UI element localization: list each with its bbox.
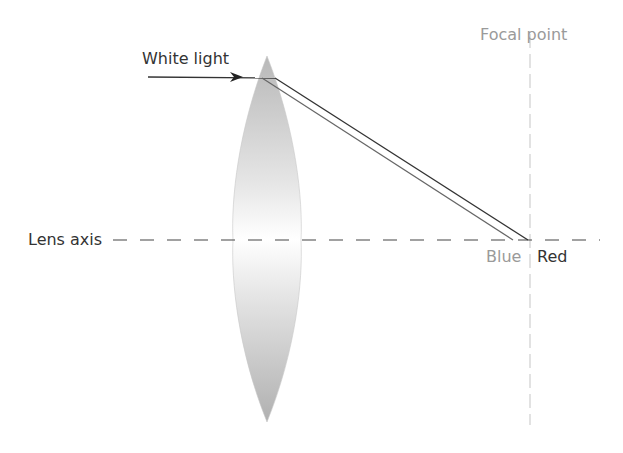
- white-light-label: White light: [142, 51, 229, 67]
- red-label: Red: [537, 249, 567, 265]
- incoming-ray: [148, 77, 275, 78]
- blue-label: Blue: [486, 249, 521, 265]
- focal-point-label: Focal point: [480, 27, 567, 43]
- convex-lens: [233, 56, 302, 422]
- lens-axis-label: Lens axis: [28, 232, 102, 248]
- red-ray: [275, 78, 528, 240]
- lens-diagram: [0, 0, 623, 453]
